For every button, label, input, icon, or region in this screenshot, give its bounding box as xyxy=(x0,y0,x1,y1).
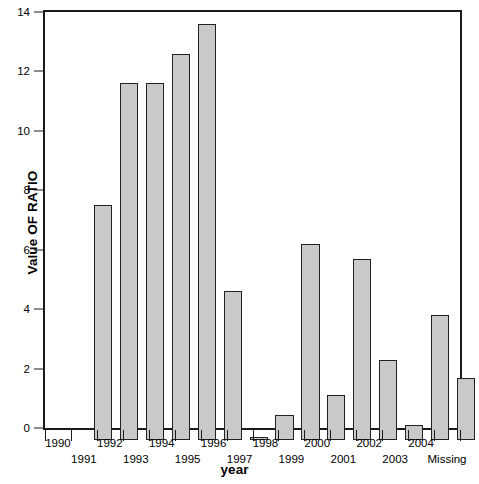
x-tick-label: 1992 xyxy=(97,437,123,449)
bar xyxy=(172,54,190,440)
y-tick-label: 8 xyxy=(24,184,30,196)
bar xyxy=(146,83,164,440)
bar xyxy=(301,244,319,440)
bar xyxy=(224,291,242,440)
x-tick-label: 2002 xyxy=(356,437,382,449)
x-tick-label: 2000 xyxy=(305,437,331,449)
bar xyxy=(431,315,449,440)
bar xyxy=(379,360,397,440)
y-tick-label: 10 xyxy=(17,125,30,137)
x-tick-label: 1990 xyxy=(45,437,71,449)
y-tick-label: 6 xyxy=(24,244,30,256)
bar xyxy=(353,259,371,440)
y-tick-mark xyxy=(34,428,43,429)
x-tick-label: 1996 xyxy=(201,437,227,449)
y-tick-mark xyxy=(34,71,43,72)
y-axis-ticks: 02468101214 xyxy=(0,0,43,484)
x-tick-label: 1994 xyxy=(149,437,175,449)
y-tick-mark xyxy=(34,130,43,131)
y-tick-label: 14 xyxy=(17,6,30,18)
bars-layer xyxy=(90,24,479,440)
plot-area xyxy=(43,10,462,430)
x-tick-label: 2004 xyxy=(408,437,434,449)
y-tick-mark xyxy=(34,309,43,310)
y-tick-mark xyxy=(34,12,43,13)
x-axis-title: year xyxy=(0,462,469,477)
y-tick-mark xyxy=(34,190,43,191)
x-tick-label: 1998 xyxy=(253,437,279,449)
bar xyxy=(120,83,138,440)
y-tick-label: 2 xyxy=(24,363,30,375)
bar xyxy=(198,24,216,440)
y-tick-label: 12 xyxy=(17,65,30,77)
y-tick-mark xyxy=(34,249,43,250)
y-tick-label: 4 xyxy=(24,303,30,315)
bar xyxy=(94,205,112,440)
y-tick-mark xyxy=(34,368,43,369)
